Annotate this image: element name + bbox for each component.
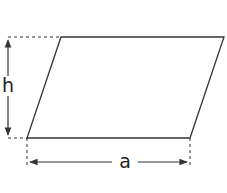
height-guides [8, 37, 61, 138]
parallelogram-shape [27, 37, 224, 138]
base-label: a [119, 150, 131, 172]
parallelogram-diagram: h a [0, 0, 227, 193]
height-label: h [2, 74, 14, 96]
base-guides [27, 138, 190, 165]
